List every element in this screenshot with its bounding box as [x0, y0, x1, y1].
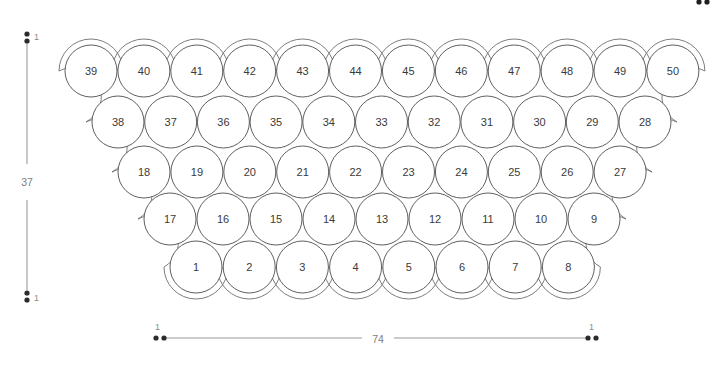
vertical-dimension-value: 37 — [21, 176, 33, 188]
circle-number-label: 39 — [85, 65, 97, 77]
horizontal-dimension-left-dot-outer — [153, 335, 158, 340]
vertical-dimension: 1 1 37 — [21, 31, 39, 303]
circle-number-label: 32 — [428, 116, 440, 128]
packing-diagram-svg: 3940414243444546474849503837363534333231… — [0, 0, 727, 370]
circle-number-label: 4 — [353, 261, 359, 273]
diagram-canvas: 3940414243444546474849503837363534333231… — [0, 0, 727, 370]
horizontal-dimension-left-tick-label: 1 — [155, 322, 160, 332]
circle-number-label: 35 — [270, 116, 282, 128]
circle-number-label: 26 — [561, 166, 573, 178]
circle-number-label: 36 — [217, 116, 229, 128]
horizontal-dimension-right-tick-label: 1 — [589, 322, 594, 332]
horizontal-dimension: 1 1 74 — [153, 322, 598, 345]
circle-number-label: 48 — [561, 65, 573, 77]
circle-number-label: 14 — [323, 213, 335, 225]
circle-number-label: 38 — [112, 116, 124, 128]
vertical-dimension-bottom-tick-label: 1 — [34, 293, 39, 303]
circle-number-label: 8 — [565, 261, 571, 273]
circle-number-label: 22 — [349, 166, 361, 178]
horizontal-dimension-right-dot-outer — [593, 335, 598, 340]
circle-number-label: 34 — [323, 116, 335, 128]
circle-number-label: 21 — [297, 166, 309, 178]
circle-number-label: 11 — [482, 213, 493, 225]
horizontal-dimension-left-dot-inner — [161, 335, 166, 340]
circle-number-label: 15 — [270, 213, 282, 225]
corner-mark-dot — [696, 0, 701, 5]
circle-number-label: 20 — [244, 166, 256, 178]
circle-number-label: 37 — [165, 116, 177, 128]
circle-number-label: 24 — [455, 166, 467, 178]
vertical-dimension-top-tick-label: 1 — [34, 32, 39, 42]
circle-number-label: 49 — [614, 65, 626, 77]
circle-number-label: 16 — [217, 213, 229, 225]
circle-number-label: 28 — [639, 116, 651, 128]
vertical-dimension-bottom-dot-outer — [24, 297, 29, 302]
circle-number-label: 3 — [299, 261, 305, 273]
vertical-dimension-bottom-dot-inner — [24, 290, 29, 295]
circle-number-label: 42 — [244, 65, 256, 77]
circle-number-label: 12 — [429, 213, 441, 225]
circle-number-label: 41 — [191, 65, 203, 77]
circle-number-label: 46 — [455, 65, 467, 77]
circle-number-label: 2 — [246, 261, 252, 273]
circle-number-label: 47 — [508, 65, 520, 77]
circle-number-label: 43 — [296, 65, 308, 77]
circle-number-label: 45 — [402, 65, 414, 77]
circle-number-label: 17 — [164, 213, 176, 225]
corner-mark-dot — [704, 0, 709, 5]
circle-number-label: 13 — [376, 213, 388, 225]
horizontal-dimension-value: 74 — [372, 333, 384, 345]
circle-number-label: 6 — [459, 261, 465, 273]
circle-number-label: 7 — [512, 261, 518, 273]
circle-number-label: 27 — [614, 166, 626, 178]
circle-number-label: 19 — [191, 166, 203, 178]
circle-number-label: 50 — [667, 65, 679, 77]
circle-number-label: 31 — [481, 116, 493, 128]
horizontal-dimension-right-dot-inner — [585, 335, 590, 340]
circle-group — [65, 45, 699, 293]
circle-number-label: 1 — [193, 261, 199, 273]
top-right-corner-marks — [696, 0, 709, 5]
circle-number-label: 29 — [586, 116, 598, 128]
vertical-dimension-top-dot-inner — [24, 38, 29, 43]
circle-number-label: 23 — [402, 166, 414, 178]
circle-number-label: 33 — [375, 116, 387, 128]
circle-number-label: 10 — [535, 213, 547, 225]
circle-number-label: 30 — [533, 116, 545, 128]
circle-number-label: 25 — [508, 166, 520, 178]
circle-number-label: 40 — [138, 65, 150, 77]
circle-number-label: 9 — [591, 213, 597, 225]
vertical-dimension-top-dot-outer — [24, 31, 29, 36]
circle-number-label: 44 — [349, 65, 361, 77]
circle-number-label: 5 — [406, 261, 412, 273]
circle-number-label: 18 — [138, 166, 150, 178]
